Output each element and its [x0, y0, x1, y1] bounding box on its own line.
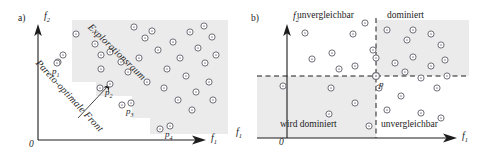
solution-point-core	[208, 81, 210, 83]
panel-a-x-axis-label-sub: 1	[214, 138, 217, 145]
solution-point-core	[372, 49, 374, 51]
solution-point-core	[163, 87, 165, 89]
point-label-p: p	[379, 80, 384, 89]
solution-point-core	[211, 36, 213, 38]
solution-point-core	[166, 68, 168, 70]
point-label-p2: p2	[105, 88, 113, 99]
solution-point-core	[406, 39, 408, 41]
solution-point-core	[412, 56, 414, 58]
solution-point-core	[177, 99, 179, 101]
figure-pareto-dominance: a) f2 f1 0 Pareto-optimale Front Explora…	[0, 0, 479, 164]
solution-point-core	[197, 47, 199, 49]
solution-point-core	[100, 68, 102, 70]
solution-point-core	[146, 81, 148, 83]
solution-point-core	[338, 68, 340, 70]
solution-point-core	[121, 104, 123, 106]
panel-a-graphics	[0, 0, 235, 164]
panel-a-origin-label: 0	[29, 140, 34, 150]
solution-point-core	[440, 117, 442, 119]
solution-point-core	[99, 87, 101, 89]
solution-point-core	[352, 33, 354, 35]
solution-point-core	[394, 62, 396, 64]
solution-point-core	[311, 58, 313, 60]
solution-point-core	[330, 87, 332, 89]
solution-point-core	[328, 113, 330, 115]
solution-point-core	[159, 128, 161, 130]
panel-a-tag: a)	[18, 14, 25, 24]
solution-point-core	[212, 99, 214, 101]
solution-point-core	[151, 30, 153, 32]
solution-point-core	[157, 49, 159, 51]
solution-point-core	[446, 75, 448, 77]
point-label-p3: p3	[126, 107, 134, 118]
panel-b-graphics	[235, 0, 479, 164]
solution-point-core	[172, 41, 174, 43]
point-label-p4: p4	[165, 130, 173, 141]
panel-a-y-axis-label-sub: 2	[47, 16, 50, 23]
solution-point-core	[400, 95, 402, 97]
solution-point-core	[144, 37, 146, 39]
solution-point-core	[179, 57, 181, 59]
solution-point-core	[304, 32, 306, 34]
solution-point-core	[436, 87, 438, 89]
solution-point-core	[191, 109, 193, 111]
solution-point-core	[444, 59, 446, 61]
solution-point-core	[133, 26, 135, 28]
solution-point-core	[375, 57, 377, 59]
panel-b-x-axis-label: f1	[462, 131, 468, 144]
quadrant-label-unvergleichbar-top-left: unvergleichbar	[297, 11, 354, 21]
panel-b-origin-label: 0	[279, 138, 284, 148]
point-label-p1: p1	[52, 67, 60, 78]
quadrant-label-dominiert: dominiert	[387, 11, 424, 21]
panel-b-x-axis-label-left: f1	[236, 127, 242, 140]
quadrant-label-unvergleichbar-bottom-right: unvergleichbar	[381, 120, 438, 130]
solution-point-core	[386, 29, 388, 31]
solution-point-core	[430, 33, 432, 35]
solution-point-core	[386, 109, 388, 111]
solution-point-core	[75, 33, 77, 35]
panel-b-dominance-quadrants: b) f2 f1 f1 0 unvergleichbar dominiert w…	[235, 0, 479, 164]
solution-point-core	[282, 85, 284, 87]
quadrant-label-wird-dominiert: wird dominiert	[280, 120, 337, 130]
solution-point-core	[420, 112, 422, 114]
solution-point-core	[127, 71, 129, 73]
solution-point-core	[185, 75, 187, 77]
solution-point-core	[203, 25, 205, 27]
solution-point-core	[420, 77, 422, 79]
solution-point-core	[62, 54, 64, 56]
panel-a-exploration-space: a) f2 f1 0 Pareto-optimale Front Explora…	[0, 0, 235, 164]
solution-point-core	[215, 54, 217, 56]
solution-point-core	[204, 62, 206, 64]
solution-point-core	[404, 71, 406, 73]
solution-point-core	[331, 52, 333, 54]
solution-point-core	[195, 91, 197, 93]
solution-point-core	[368, 125, 370, 127]
solution-point-core	[138, 57, 140, 59]
solution-point-core	[100, 54, 102, 56]
panel-a-x-axis-label: f1	[211, 133, 217, 146]
solution-point-core	[364, 22, 366, 24]
solution-point-core	[430, 65, 432, 67]
panel-b-tag: b)	[251, 14, 259, 24]
solution-point-core	[189, 31, 191, 33]
panel-a-y-axis-label: f2	[44, 11, 50, 24]
solution-point-core	[440, 44, 442, 46]
solution-point-core	[412, 29, 414, 31]
solution-point-core	[94, 43, 96, 45]
solution-point-core	[354, 102, 356, 104]
solution-point-core	[354, 65, 356, 67]
